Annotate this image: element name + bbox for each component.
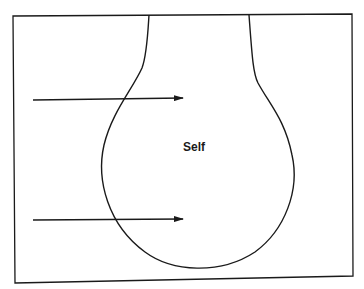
diagram-canvas: Self	[0, 0, 364, 289]
lower-arrow	[33, 219, 183, 220]
self-label: Self	[183, 140, 206, 154]
upper-arrow	[33, 98, 183, 100]
